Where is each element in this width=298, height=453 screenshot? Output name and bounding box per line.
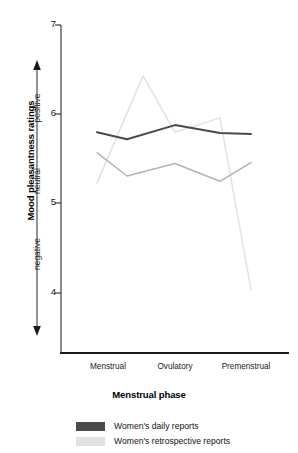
legend-label-retrospective: Women's retrospective reports xyxy=(114,437,230,446)
series-retrospective-line xyxy=(97,76,251,290)
legend-item-retrospective: Women's retrospective reports xyxy=(76,434,291,449)
chart-legend: Women's daily reports Women's retrospect… xyxy=(76,419,291,449)
x-tick-menstrual: Menstrual xyxy=(90,362,126,371)
line-chart-plot xyxy=(0,0,298,453)
x-axis-title: Menstrual phase xyxy=(0,389,298,400)
legend-label-daily: Women's daily reports xyxy=(114,422,199,431)
series-daily-line xyxy=(97,125,251,139)
polarity-label-negative: negative xyxy=(32,224,42,284)
x-tick-premenstrual: Premenstrual xyxy=(222,362,271,371)
x-tick-ovulatory: Ovulatory xyxy=(157,362,192,371)
legend-item-daily: Women's daily reports xyxy=(76,419,291,434)
y-tick-marks xyxy=(55,25,61,293)
legend-swatch-retrospective xyxy=(76,437,105,446)
series-midgray-line xyxy=(97,153,251,182)
chart-figure: Mood pleasantness ratings positive neutr… xyxy=(0,0,298,453)
legend-swatch-daily xyxy=(76,422,105,431)
